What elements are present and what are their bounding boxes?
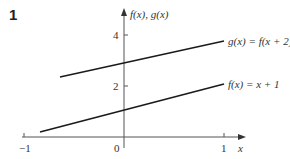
f-line-label: f(x) = x + 1	[228, 78, 280, 91]
y-axis-arrow-icon	[121, 8, 127, 16]
f-line	[40, 84, 224, 132]
y-tick-label-2: 2	[113, 80, 119, 92]
g-line	[60, 41, 224, 77]
x-tick-label-neg1: −1	[19, 142, 31, 154]
function-graph: −1 0 1 4 2 f(x), g(x) x g(x) = f(x + 2) …	[0, 0, 290, 159]
g-line-label: g(x) = f(x + 2)	[228, 35, 290, 48]
x-axis-arrow-icon	[238, 134, 246, 140]
x-axis-label: x	[237, 142, 243, 154]
y-axis-label: f(x), g(x)	[130, 8, 169, 21]
x-tick-label-1: 1	[221, 142, 227, 154]
x-tick-label-0: 0	[114, 142, 120, 154]
y-tick-label-4: 4	[113, 29, 119, 41]
